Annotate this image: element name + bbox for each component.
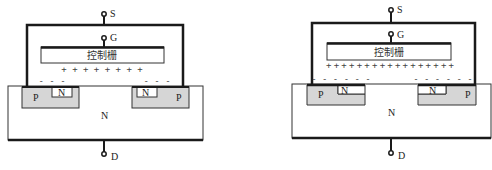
- drain-terminal-icon: [102, 152, 106, 156]
- left-p-label: P: [318, 89, 324, 100]
- right-p-label: P: [176, 92, 182, 103]
- right-negative-charges: - - - - - -: [413, 74, 473, 84]
- drain-terminal-icon: [389, 151, 393, 155]
- gate-positive-charges: + + + + + + + +: [61, 64, 143, 74]
- drain-label: D: [398, 150, 405, 161]
- left-n-label: N: [58, 87, 65, 98]
- source-label: S: [110, 8, 116, 19]
- diagram-left: S G 控制栅 + + + + + + + + - - - - - - P N …: [8, 8, 203, 162]
- right-p-label: P: [465, 89, 471, 100]
- gate-label: G: [397, 29, 404, 40]
- left-n-label: N: [341, 85, 348, 96]
- gate-terminal-icon: [102, 36, 106, 40]
- substrate-label: N: [388, 107, 395, 118]
- right-n-label: N: [429, 85, 436, 96]
- drain-label: D: [111, 151, 118, 162]
- control-gate-label: 控制栅: [87, 49, 117, 61]
- gate-terminal-icon: [389, 32, 393, 36]
- substrate-label: N: [101, 110, 108, 121]
- left-negative-charges: - - - - - -: [311, 74, 371, 84]
- gate-label: G: [110, 32, 117, 43]
- mosfet-diagrams: S G 控制栅 + + + + + + + + - - - - - - P N …: [0, 0, 492, 170]
- diagram-right: S G 控制栅 +++++++++++++++++ - - - - - - - …: [292, 4, 491, 161]
- right-n-label: N: [142, 87, 149, 98]
- gate-positive-charges: +++++++++++++++++: [326, 60, 455, 70]
- source-terminal-icon: [389, 8, 393, 12]
- left-negative-charges: - - -: [38, 76, 65, 86]
- source-label: S: [397, 4, 403, 15]
- source-terminal-icon: [102, 12, 106, 16]
- left-p-label: P: [33, 92, 39, 103]
- control-gate-label: 控制栅: [374, 46, 404, 58]
- right-negative-charges: - - -: [143, 76, 170, 86]
